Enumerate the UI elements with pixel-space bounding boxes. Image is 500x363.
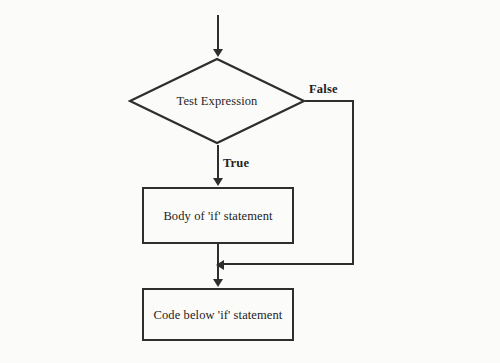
false-branch-edge-horizontal-top [305, 100, 354, 102]
false-branch-edge-horizontal-merge [224, 263, 354, 265]
process-box-code-below-label: Code below 'if' statement [154, 307, 283, 323]
background-ghost-text-top [20, 14, 200, 41]
decision-label: Test Expression [128, 57, 306, 145]
background-ghost-text-middle [352, 150, 498, 257]
false-branch-label: False [309, 82, 338, 97]
process-box-body-if: Body of 'if' statement [142, 187, 294, 244]
process-box-body-if-label: Body of 'if' statement [163, 208, 272, 224]
false-branch-edge-vertical [352, 100, 354, 264]
true-branch-edge [217, 145, 219, 179]
background-ghost-text-lower [145, 246, 360, 286]
background-ghost-text-right [352, 10, 498, 90]
entry-edge [217, 15, 219, 51]
body-to-merge-edge [217, 244, 219, 280]
background-ghost-text-left [2, 42, 134, 350]
entry-arrowhead-icon [213, 49, 223, 57]
merge-to-code-arrowhead-icon [213, 279, 223, 287]
scanned-page: Test Expression True False Body of 'if' … [0, 0, 500, 363]
decision-diamond: Test Expression [128, 57, 306, 145]
background-ghost-text-bottom [300, 285, 498, 339]
true-branch-label: True [223, 156, 249, 171]
process-box-code-below: Code below 'if' statement [142, 288, 294, 341]
true-branch-arrowhead-icon [213, 178, 223, 186]
